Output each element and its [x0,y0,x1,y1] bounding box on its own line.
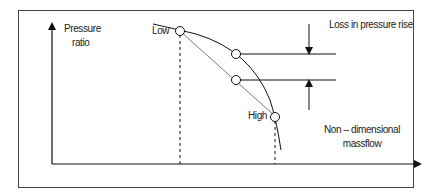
loss-annotation: Loss in pressure rise [329,19,413,31]
characteristic-curve [153,24,281,150]
high-point-marker [271,113,280,122]
x-axis-label-line2: massflow [312,138,412,150]
y-axis-label-line1: Pressure [64,23,101,35]
secant-line [181,32,275,116]
high-label: High [248,110,267,122]
x-axis-label-line1: Non – dimensional [312,124,412,136]
y-axis-label-line2: ratio [72,37,89,49]
low-point-marker [176,27,185,36]
upper-point-marker [232,50,241,59]
low-label: Low [152,25,169,37]
lower-point-marker [232,76,241,85]
